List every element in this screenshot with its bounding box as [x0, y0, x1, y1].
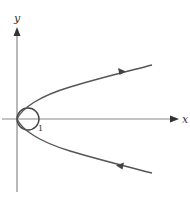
upper-curve: [17, 65, 152, 119]
y-axis-arrow-icon: [14, 27, 21, 36]
x-axis-arrow-icon: [170, 116, 179, 123]
circle-label: 1: [38, 124, 43, 133]
y-axis: [14, 27, 21, 192]
diagram-canvas: y x 1: [0, 0, 190, 199]
y-axis-label: y: [13, 12, 21, 25]
x-axis: [2, 116, 179, 123]
x-axis-label: x: [182, 113, 189, 126]
